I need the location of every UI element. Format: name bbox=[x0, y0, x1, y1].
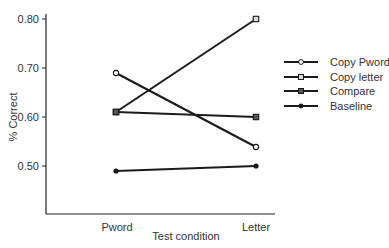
x-tick-label: Pword bbox=[101, 221, 132, 233]
y-tick-label: 0.60 bbox=[18, 111, 39, 123]
legend-label: Compare bbox=[330, 85, 375, 97]
legend-item-baseline: Baseline bbox=[284, 100, 372, 112]
legend: Copy Pword Copy letter Compare Baseline bbox=[284, 56, 389, 112]
series-copy-pword bbox=[113, 70, 258, 149]
legend-item-copy-letter: Copy letter bbox=[284, 71, 384, 83]
legend-label: Baseline bbox=[330, 100, 372, 112]
legend-label: Copy Pword bbox=[330, 56, 389, 68]
y-tick-label: 0.70 bbox=[18, 62, 39, 74]
y-axis-label: % Correct bbox=[7, 93, 19, 142]
legend-item-copy-pword: Copy Pword bbox=[284, 56, 389, 68]
legend-label: Copy letter bbox=[330, 71, 384, 83]
y-ticks: 0.80 0.70 0.60 0.50 bbox=[18, 13, 46, 172]
series-baseline bbox=[113, 163, 258, 173]
y-tick-label: 0.80 bbox=[18, 13, 39, 25]
line-chart: 0.80 0.70 0.60 0.50 % Correct Pword Lett… bbox=[0, 0, 389, 248]
y-tick-label: 0.50 bbox=[18, 160, 39, 172]
x-axis-label: Test condition bbox=[152, 230, 219, 242]
series-copy-letter bbox=[113, 16, 258, 114]
x-tick-label: Letter bbox=[242, 221, 270, 233]
legend-item-compare: Compare bbox=[284, 85, 375, 97]
